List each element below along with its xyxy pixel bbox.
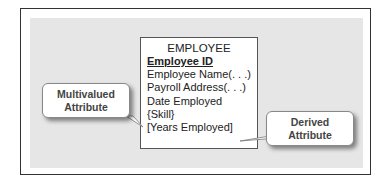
derived-attribute-callout: Derived Attribute xyxy=(266,111,354,146)
attribute-date-employed: Date Employed xyxy=(147,95,257,108)
attribute-employee-name: Employee Name(. . .) xyxy=(147,68,257,81)
primary-key-attribute: Employee ID xyxy=(147,55,257,68)
attribute-payroll-address: Payroll Address(. . .) xyxy=(147,81,257,94)
callout-line-2: Attribute xyxy=(43,101,129,114)
employee-entity-box: EMPLOYEE Employee ID Employee Name(. . .… xyxy=(140,37,258,149)
attribute-skill: {Skill} xyxy=(147,108,257,121)
attribute-years-employed: [Years Employed] xyxy=(147,121,257,134)
callout-line-1: Derived xyxy=(267,116,353,129)
callout-line-1: Multivalued xyxy=(43,88,129,101)
multivalued-attribute-callout: Multivalued Attribute xyxy=(42,83,130,118)
entity-name: EMPLOYEE xyxy=(147,41,251,55)
callout-line-2: Attribute xyxy=(267,129,353,142)
